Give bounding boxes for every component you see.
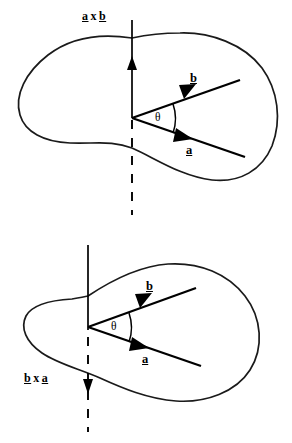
- vector-a-arrowhead-bottom: [129, 337, 149, 351]
- cross-label-bottom-second: a: [42, 371, 49, 385]
- diagram-top: [18, 20, 277, 215]
- cross-product-label-top: axb: [82, 9, 106, 24]
- angle-label-bottom: θ: [111, 320, 117, 332]
- cross-label-top-first: a: [82, 9, 89, 23]
- cross-product-label-bottom: bxa: [24, 371, 48, 386]
- normal-axis-arrowhead-up-top: [127, 56, 137, 70]
- angle-arc-bottom: [129, 313, 131, 342]
- figure-root: axb b a θ bxa b a θ: [0, 0, 292, 443]
- normal-axis-arrowhead-down-bottom: [83, 379, 93, 394]
- diagram-bottom: [24, 245, 260, 432]
- vector-b-label-top: b: [190, 71, 197, 86]
- vector-a-arrowhead-top: [173, 128, 193, 142]
- angle-arc-top: [173, 104, 175, 133]
- vector-a-label-bottom: a: [142, 352, 148, 367]
- vector-a-label-top: a: [186, 143, 192, 158]
- plane-outline-top: [18, 33, 277, 180]
- vector-b-label-bottom: b: [146, 279, 153, 294]
- angle-label-top: θ: [155, 111, 161, 123]
- plane-outline-bottom: [24, 264, 260, 401]
- cross-label-top-operator: x: [89, 9, 100, 23]
- cross-label-bottom-operator: x: [31, 371, 42, 385]
- cross-label-top-second: b: [99, 9, 106, 23]
